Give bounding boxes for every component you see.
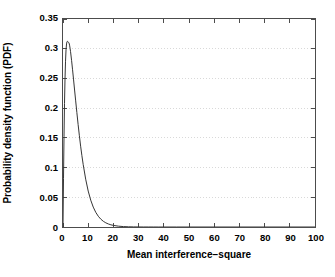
x-tick-label: 10 (82, 233, 93, 243)
x-tick-label: 90 (285, 233, 296, 243)
x-tick-label: 40 (158, 233, 169, 243)
x-tick-label: 20 (108, 233, 119, 243)
y-axis-label-container: Probability density function (PDF) (0, 18, 16, 228)
x-tick-label: 50 (184, 233, 195, 243)
x-tick-label: 60 (209, 233, 220, 243)
y-tick-label: 0.25 (16, 73, 58, 83)
y-tick-label: 0.3 (16, 43, 58, 53)
y-tick-label: 0.15 (16, 133, 58, 143)
x-tick-label: 80 (260, 233, 271, 243)
pdf-curve (63, 19, 315, 227)
figure: Probability density function (PDF) 00.05… (0, 0, 335, 277)
x-axis-label: Mean interference−square (62, 250, 316, 260)
y-tick-label: 0.05 (16, 193, 58, 203)
plot-area (62, 18, 316, 228)
y-tick-label: 0 (16, 223, 58, 233)
x-tick-label: 100 (308, 233, 324, 243)
y-tick-label: 0.1 (16, 163, 58, 173)
y-tick-label: 0.2 (16, 103, 58, 113)
y-axis-label: Probability density function (PDF) (3, 42, 13, 203)
x-tick-label: 0 (59, 233, 64, 243)
x-tick-label: 30 (133, 233, 144, 243)
y-tick-label: 0.35 (16, 13, 58, 23)
x-tick-label: 70 (235, 233, 246, 243)
